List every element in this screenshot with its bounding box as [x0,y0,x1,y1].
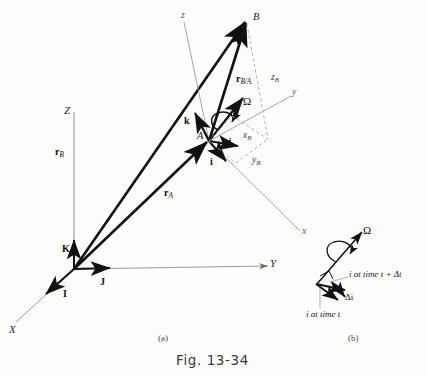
projection-label-yB-sub: B [256,159,260,166]
panel-a-label: (a) [158,334,168,343]
axis-label-y: y [292,88,296,98]
unit-vector-label-k: k [184,116,190,126]
unit-vector-label-J: J [100,277,105,287]
vector-label-rBA-sub: B/A [240,78,251,86]
vector-rA-arrow [74,142,207,269]
vector-label-rB: rB [55,147,64,159]
unit-vector-label-i: i [210,157,213,167]
projection-label-zB: zB [271,73,279,83]
panel-b-label: (b) [348,334,359,343]
unit-vector-I-arrow [46,269,74,294]
point-label-A: A [197,131,203,142]
figure-page: Z Y X K J I z y x k j i A B rB rA rB/A Ω… [0,0,427,376]
omega-label-b: Ω [363,225,371,236]
axis-label-X: X [9,324,16,335]
axis-label-Z: Z [64,105,70,116]
vector-label-rB-sub: B [59,151,63,159]
figure-canvas [0,0,427,376]
unit-vector-label-j: j [228,137,231,147]
vector-rB-arrow [74,22,245,269]
axis-label-x: x [302,227,306,237]
unit-vector-label-K: K [62,244,70,254]
axis-label-Y: Y [270,258,276,269]
projection-label-xB-sub: B [247,134,251,141]
projection-label-yB: yB [252,156,260,166]
unit-vector-label-I: I [63,289,67,299]
figure-caption: Fig. 13-34 [176,354,249,368]
projection-label-zB-sub: B [275,76,279,83]
position-vectors [74,22,246,269]
omega-label-a: Ω [243,96,251,107]
point-label-B: B [253,12,259,23]
annotation-i-at-time-t: i at time t [306,310,340,319]
vector-label-rA: rA [164,188,173,200]
projection-label-xB: xB [243,131,251,141]
axis-label-z: z [181,11,185,21]
annotation-delta-i: Δi [345,293,353,302]
vector-label-rA-sub: A [168,192,172,200]
unit-vector-J-arrow [74,268,110,269]
vector-label-rBA: rB/A [236,74,251,86]
annotation-i-at-time-t-plus-dt: i at time t + Δt [349,270,402,279]
